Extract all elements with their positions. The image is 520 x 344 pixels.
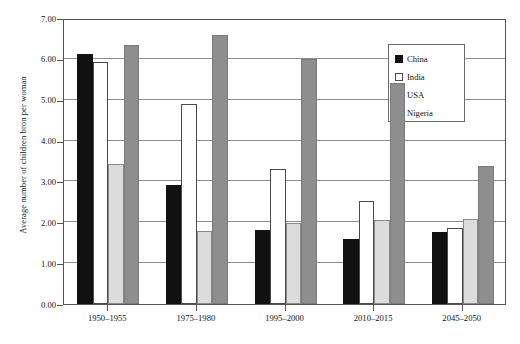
legend-label-usa: USA [407,91,424,100]
bar-usa-4 [463,219,479,304]
x-tick-mark [373,305,374,311]
x-tick-mark [107,305,108,311]
legend-item-india: India [395,68,464,86]
bar-india-1 [181,104,197,304]
y-tick-label: 0.00 [16,300,56,310]
y-tick-label: 6.00 [16,54,56,64]
legend-label-china: China [407,55,428,64]
x-tick-mark [285,305,286,311]
bar-usa-1 [197,231,213,304]
bar-nigeria-0 [124,45,140,304]
bar-china-0 [77,54,93,304]
y-tick-label: 7.00 [16,14,56,24]
legend-label-nigeria: Nigeria [407,109,433,118]
bar-nigeria-4 [478,166,494,304]
bar-china-3 [343,239,359,304]
bar-usa-0 [108,164,124,304]
bar-usa-3 [374,220,390,304]
legend-label-india: India [407,73,425,82]
bar-india-2 [270,169,286,304]
y-tick-label: 2.00 [16,218,56,228]
y-tick-label: 3.00 [16,177,56,187]
x-tick-mark [196,305,197,311]
bar-nigeria-3 [390,83,406,304]
y-tick-mark [57,305,63,306]
bar-chart: Average number of children bron per woma… [0,0,520,344]
y-tick-label: 5.00 [16,95,56,105]
legend-swatch-china [395,55,403,63]
legend-swatch-india [395,73,403,81]
y-tick-label: 1.00 [16,259,56,269]
bar-china-4 [432,232,448,304]
bar-usa-2 [286,223,302,304]
legend-item-china: China [395,50,464,68]
y-tick-label: 4.00 [16,136,56,146]
bar-china-1 [166,185,182,304]
bar-china-2 [255,230,271,304]
bar-india-3 [359,201,375,304]
bar-nigeria-1 [212,35,228,304]
legend-item-usa: USA [395,86,464,104]
legend-item-nigeria: Nigeria [395,104,464,122]
bar-india-0 [93,62,109,304]
x-tick-mark [462,305,463,311]
bar-nigeria-2 [301,59,317,304]
bar-india-4 [447,228,463,304]
x-tick-label: 2045–2050 [407,313,517,323]
